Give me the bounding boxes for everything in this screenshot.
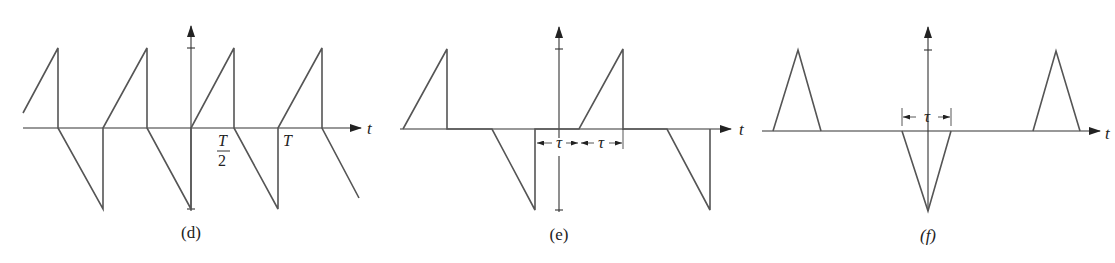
panel-f: τ t (f) (762, 27, 1111, 245)
triangle-right (1033, 51, 1080, 131)
t-axis-label: t (367, 119, 373, 138)
panel-d: t T 2 T (d) (23, 26, 373, 242)
tau-label-left: τ (556, 133, 563, 152)
panel-e: τ τ t (e) (400, 27, 745, 244)
half-period-numerator: T (218, 132, 228, 149)
triangle-center-inverted (902, 131, 951, 211)
waveform-e (403, 49, 710, 210)
t-axis-label: t (739, 120, 745, 139)
caption-e: (e) (550, 225, 569, 244)
t-axis-label: t (1105, 124, 1111, 143)
figure-canvas: t T 2 T (d) τ τ t (e) (0, 0, 1115, 263)
tau-label: τ (924, 107, 931, 126)
caption-f: (f) (920, 226, 936, 245)
period-label: T (283, 132, 293, 149)
tau-label-right: τ (598, 133, 605, 152)
caption-d: (d) (181, 223, 201, 242)
half-period-denominator: 2 (218, 152, 226, 169)
triangle-left (773, 50, 821, 131)
